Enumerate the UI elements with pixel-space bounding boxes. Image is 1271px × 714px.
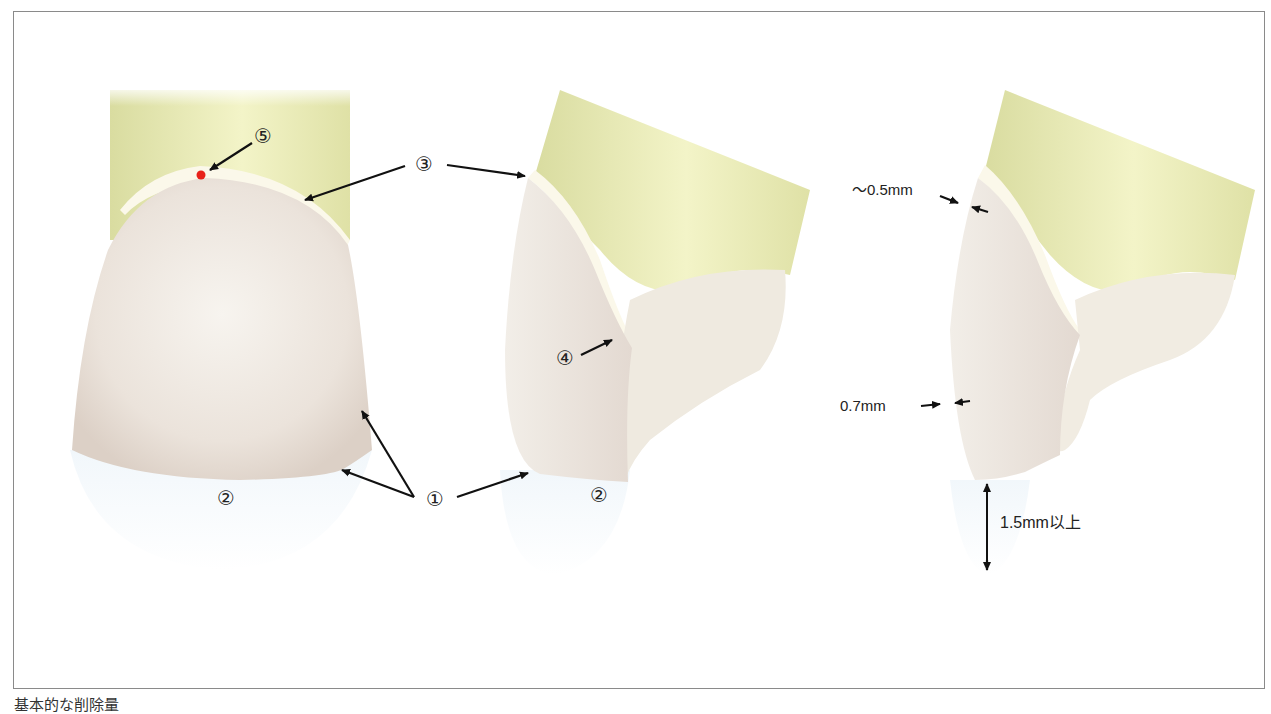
proximal-tooth-view [500, 90, 810, 575]
red-marker-dot [197, 171, 206, 180]
label-2-labial: ② [217, 488, 235, 508]
label-body-thickness: 0.7mm [840, 398, 886, 413]
label-5: ⑤ [254, 126, 272, 146]
label-2-proximal: ② [590, 485, 608, 505]
figure-caption: 基本的な削除量 [14, 693, 119, 714]
label-cervical-thickness: ～0.5mm [852, 182, 913, 197]
label-incisal-reduction: 1.5mm以上 [1000, 515, 1081, 531]
arrow-cervical-out [940, 196, 958, 203]
label-1: ① [426, 489, 444, 509]
section-tooth-view [950, 90, 1255, 575]
label-3: ③ [415, 154, 433, 174]
arrow-body-out [921, 404, 940, 406]
arrow-3-right [447, 165, 525, 176]
label-4: ④ [556, 348, 574, 368]
